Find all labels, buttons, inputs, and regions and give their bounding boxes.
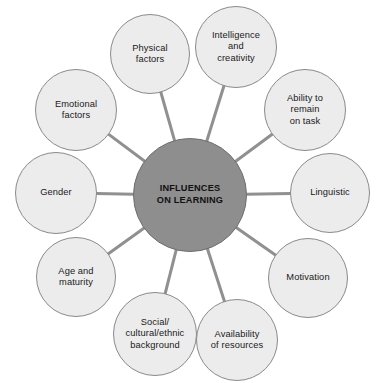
node-age-maturity: Age and maturity — [36, 237, 116, 317]
node-ability-remain: Ability to remain on task — [264, 69, 346, 151]
center-hub-influences-on-learning: INFLUENCES ON LEARNING — [133, 138, 247, 252]
connector-emotional-factors — [108, 134, 145, 162]
connector-intelligence — [207, 85, 225, 141]
node-availability: Availability of resources — [196, 299, 278, 381]
connector-linguistic — [246, 194, 291, 195]
node-linguistic: Linguistic — [290, 153, 370, 233]
node-label-intelligence: Intelligence and creativity — [208, 30, 264, 64]
node-label-social-cultural: Social/ cultural/ethnic background — [122, 317, 189, 351]
node-intelligence: Intelligence and creativity — [195, 6, 277, 88]
node-social-cultural: Social/ cultural/ethnic background — [113, 292, 197, 376]
connector-availability — [207, 248, 224, 302]
node-label-physical-factors: Physical factors — [128, 43, 171, 66]
node-emotional-factors: Emotional factors — [35, 69, 117, 151]
connector-motivation — [236, 227, 276, 255]
connector-social-cultural — [165, 249, 176, 294]
node-gender: Gender — [15, 152, 97, 234]
node-label-ability-remain: Ability to remain on task — [283, 93, 327, 127]
node-label-motivation: Motivation — [282, 272, 333, 283]
influences-on-learning-diagram: INFLUENCES ON LEARNING Physical factorsI… — [0, 0, 380, 383]
connector-age-maturity — [108, 228, 145, 255]
connector-physical-factors — [161, 92, 175, 142]
node-label-emotional-factors: Emotional factors — [51, 99, 101, 122]
connector-gender — [96, 194, 134, 195]
center-hub-label: INFLUENCES ON LEARNING — [153, 183, 227, 207]
node-label-linguistic: Linguistic — [306, 187, 354, 198]
connector-ability-remain — [235, 134, 273, 162]
node-label-availability: Availability of resources — [207, 329, 267, 352]
node-physical-factors: Physical factors — [110, 14, 190, 94]
node-label-age-maturity: Age and maturity — [54, 266, 97, 289]
node-motivation: Motivation — [268, 238, 348, 318]
node-label-gender: Gender — [36, 187, 76, 198]
